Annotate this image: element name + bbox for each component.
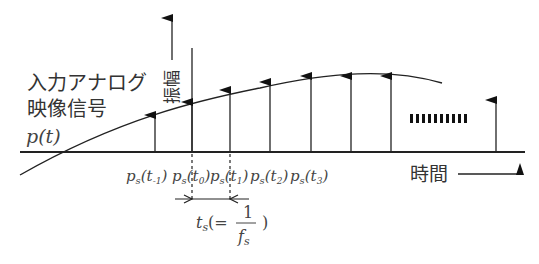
signal-title-line2: 映像信号 [27, 97, 107, 121]
diagram-svg: 入力アナログ 映像信号 p(t) 振幅 時間 ps(t-1) ps(t0) ps… [0, 0, 539, 264]
period-label: ts(= 1 fs ) [196, 203, 268, 248]
time-axis-label: 時間 [410, 163, 448, 185]
sample-arrows [155, 76, 496, 152]
sample-labels: ps(t-1) ps(t0) ps(t1) ps(t2) ps(t3) [126, 167, 328, 186]
sampling-diagram: 入力アナログ 映像信号 p(t) 振幅 時間 ps(t-1) ps(t0) ps… [0, 0, 539, 264]
svg-text:ps(t-1): ps(t-1) [126, 167, 167, 186]
continuation-dashes [410, 114, 467, 123]
svg-text:1: 1 [243, 203, 253, 222]
signal-title-line1: 入力アナログ [27, 71, 147, 95]
svg-text:ps(t1): ps(t1) [210, 167, 248, 186]
svg-text:fs: fs [237, 227, 250, 248]
svg-text:ts(=: ts(= [196, 213, 228, 234]
svg-text:): ) [262, 213, 268, 232]
svg-text:ps(t3): ps(t3) [290, 167, 328, 186]
signal-symbol: p(t) [26, 125, 61, 147]
svg-text:ps(t2): ps(t2) [250, 167, 288, 186]
svg-text:ps(t0): ps(t0) [172, 167, 210, 186]
amplitude-axis-label: 振幅 [162, 70, 182, 104]
